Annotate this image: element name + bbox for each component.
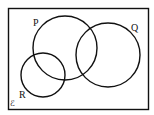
universal-set-frame <box>9 9 149 110</box>
set-p-label: P <box>33 17 39 28</box>
set-q-label: Q <box>131 22 139 33</box>
universal-set-symbol: ℰ <box>10 99 15 108</box>
set-r-label: R <box>19 89 26 100</box>
set-r-circle <box>21 53 65 97</box>
venn-diagram: P Q R ℰ <box>0 0 154 115</box>
